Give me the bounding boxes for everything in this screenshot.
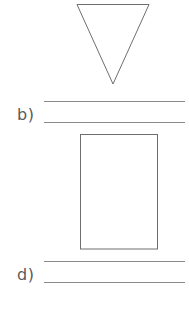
answer-line-b-1[interactable]: [44, 101, 185, 102]
answer-line-d-2[interactable]: [44, 282, 185, 283]
item-label-b: b): [17, 107, 34, 123]
item-label-d: d): [17, 267, 34, 283]
rectangle-shape: [81, 135, 158, 250]
shapes-canvas: [0, 0, 189, 310]
answer-line-d-1[interactable]: [44, 261, 185, 262]
inverted-triangle-shape: [77, 5, 149, 85]
answer-line-b-2[interactable]: [44, 122, 185, 123]
